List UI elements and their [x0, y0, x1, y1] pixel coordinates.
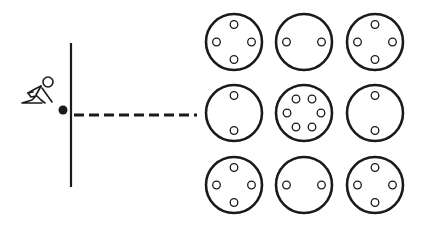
hole-icon [292, 95, 300, 103]
hole-icon [317, 109, 325, 117]
diagram-svg [0, 0, 423, 231]
hole-icon [354, 181, 362, 189]
hole-icon [371, 199, 379, 207]
hole-icon [371, 127, 379, 135]
hole-icon [230, 164, 238, 172]
hole-icon [371, 92, 379, 100]
hole-icon [283, 109, 291, 117]
hole-icon [308, 95, 316, 103]
kneeling-athlete-icon [22, 77, 53, 103]
hole-icon [213, 38, 221, 46]
hole-icon [371, 21, 379, 29]
hole-icon [248, 181, 256, 189]
hole-icon [389, 181, 397, 189]
hole-icon [318, 38, 326, 46]
hole-icon [292, 123, 300, 131]
hole-icon [230, 199, 238, 207]
hole-icon [371, 164, 379, 172]
hole-icon [308, 123, 316, 131]
hole-icon [213, 181, 221, 189]
hole-icon [354, 38, 362, 46]
hole-icon [230, 127, 238, 135]
hole-icon [248, 38, 256, 46]
hole-icon [230, 56, 238, 64]
ball-icon [59, 106, 68, 115]
hole-icon [283, 38, 291, 46]
hole-icon [230, 21, 238, 29]
hole-icon [230, 92, 238, 100]
hole-icon [389, 38, 397, 46]
hole-icon [318, 181, 326, 189]
diagram-canvas [0, 0, 423, 231]
hole-icon [283, 181, 291, 189]
hole-icon [371, 56, 379, 64]
